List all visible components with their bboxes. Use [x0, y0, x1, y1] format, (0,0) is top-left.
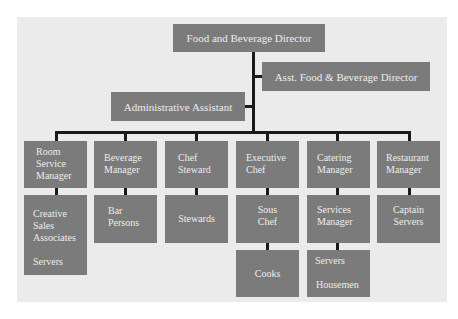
child-line: Creative	[33, 208, 87, 220]
box-asst-food-beverage-director: Asst. Food & Beverage Director	[262, 62, 430, 91]
child-line: Cooks	[255, 268, 281, 280]
connector-col1-row2	[55, 188, 58, 195]
connector-col2-down	[124, 131, 127, 141]
child-line: Services	[317, 204, 370, 216]
head-line: Catering	[317, 152, 370, 164]
head-line: Chef	[246, 164, 299, 176]
child-line: Stewards	[178, 213, 215, 225]
child-line: Captain	[377, 204, 440, 216]
connector-col5-row2	[336, 188, 339, 195]
connector-asst-director	[254, 75, 262, 78]
connector-col4-row3	[266, 243, 269, 250]
box-creative-sales-servers: Creative Sales Associates Servers	[24, 195, 87, 275]
connector-col5-row3	[336, 243, 339, 250]
connector-col1-down	[55, 131, 58, 141]
child-line: Servers	[33, 256, 87, 268]
box-beverage-manager: Beverage Manager	[94, 141, 157, 188]
box-catering-manager: Catering Manager	[307, 141, 370, 188]
head-line: Manager	[36, 170, 87, 182]
connector-col6-row2	[408, 188, 411, 195]
head-line: Executive	[246, 152, 299, 164]
box-room-service-manager: Room Service Manager	[24, 141, 87, 188]
head-line: Manager	[386, 164, 440, 176]
child-line: Bar	[108, 205, 157, 217]
child-line: Housemen	[315, 279, 370, 291]
box-food-beverage-director: Food and Beverage Director	[173, 24, 325, 52]
head-line: Manager	[104, 164, 157, 176]
connector-col2-row2	[124, 188, 127, 195]
child-line: Persons	[108, 217, 157, 229]
box-sous-chef: Sous Chef	[236, 195, 299, 243]
box-restaurant-manager: Restaurant Manager	[377, 141, 440, 188]
child-line: Associates	[33, 232, 87, 244]
box-captain-servers: Captain Servers	[377, 195, 440, 243]
head-line: Service	[36, 158, 87, 170]
head-line: Steward	[178, 164, 228, 176]
child-line-spacer	[315, 267, 370, 279]
head-line: Manager	[317, 164, 370, 176]
head-line: Chef	[178, 152, 228, 164]
child-line: Sales	[33, 220, 87, 232]
connector-col4-row2	[266, 188, 269, 195]
box-cooks: Cooks	[236, 250, 299, 297]
child-line: Servers	[377, 216, 440, 228]
child-line: Chef	[236, 216, 299, 228]
child-line: Sous	[236, 204, 299, 216]
box-bar-persons: Bar Persons	[94, 195, 157, 243]
connector-col3-down	[195, 131, 198, 141]
child-line: Manager	[317, 216, 370, 228]
box-executive-chef: Executive Chef	[236, 141, 299, 188]
child-line-spacer	[33, 244, 87, 256]
box-services-manager: Services Manager	[307, 195, 370, 243]
box-stewards: Stewards	[165, 195, 228, 243]
head-line: Beverage	[104, 152, 157, 164]
connector-horizontal-bus	[55, 131, 411, 134]
box-chef-steward: Chef Steward	[165, 141, 228, 188]
connector-col4-down	[266, 131, 269, 141]
box-administrative-assistant: Administrative Assistant	[111, 92, 245, 121]
head-line: Restaurant	[386, 152, 440, 164]
child-line: Servers	[315, 255, 370, 267]
connector-col5-down	[336, 131, 339, 141]
connector-director-trunk	[252, 52, 255, 133]
director-label: Food and Beverage Director	[187, 32, 312, 44]
asst-director-label: Asst. Food & Beverage Director	[275, 71, 418, 83]
connector-admin-assistant	[245, 105, 253, 108]
box-servers-housemen: Servers Housemen	[307, 250, 370, 297]
connector-col3-row2	[195, 188, 198, 195]
connector-col6-down	[408, 131, 411, 141]
admin-assistant-label: Administrative Assistant	[124, 101, 232, 113]
head-line: Room	[36, 146, 87, 158]
